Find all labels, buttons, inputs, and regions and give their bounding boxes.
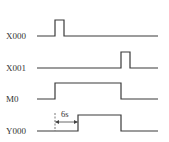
waveform-m0 xyxy=(37,83,158,99)
signal-y000: Y000 xyxy=(6,115,158,136)
signal-x001: X001 xyxy=(6,52,158,73)
waveform-x001 xyxy=(37,52,158,68)
signal-label-x001: X001 xyxy=(6,63,26,73)
signal-label-m0: M0 xyxy=(6,94,19,104)
delay-label: 6s xyxy=(61,109,69,119)
signal-label-y000: Y000 xyxy=(6,126,26,136)
signal-label-x000: X000 xyxy=(6,31,26,41)
delay-annotation: 6s xyxy=(55,109,78,131)
signal-x000: X000 xyxy=(6,20,158,41)
signal-m0: M0 xyxy=(6,83,158,104)
waveform-x000 xyxy=(37,20,158,36)
timing-diagram: X000 X001 M0 Y000 6s xyxy=(0,0,169,142)
